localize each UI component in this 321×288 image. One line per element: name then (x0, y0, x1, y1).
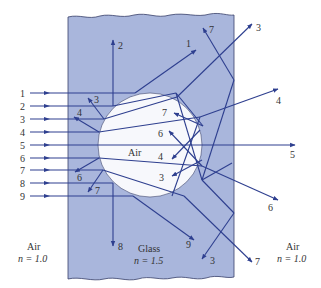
svg-text:3: 3 (210, 255, 215, 266)
svg-text:3: 3 (256, 22, 261, 33)
svg-text:1: 1 (186, 38, 191, 49)
svg-text:n = 1.0: n = 1.0 (277, 253, 306, 264)
svg-text:6: 6 (77, 172, 82, 183)
svg-text:Air: Air (286, 241, 300, 252)
svg-text:n = 1.0: n = 1.0 (18, 253, 47, 264)
svg-text:6: 6 (158, 128, 163, 139)
svg-text:4: 4 (158, 151, 163, 162)
svg-text:Glass: Glass (138, 243, 160, 254)
diagram: 1 2 3 4 5 6 7 8 9 2 1 7 3 4 5 6 7 3 9 8 … (0, 0, 321, 288)
svg-text:2: 2 (118, 40, 123, 51)
svg-text:n = 1.5: n = 1.5 (134, 255, 163, 266)
svg-text:3: 3 (20, 114, 25, 125)
svg-text:4: 4 (276, 95, 281, 106)
svg-text:2: 2 (20, 101, 25, 112)
svg-text:3: 3 (94, 94, 99, 105)
svg-text:4: 4 (77, 107, 82, 118)
incident-labels: 1 2 3 4 5 6 7 8 9 (20, 88, 25, 202)
svg-text:Air: Air (27, 241, 41, 252)
svg-text:7: 7 (95, 185, 100, 196)
svg-text:5: 5 (20, 140, 25, 151)
svg-text:5: 5 (290, 149, 295, 160)
svg-text:4: 4 (20, 127, 25, 138)
svg-text:Air: Air (128, 147, 142, 158)
svg-text:7: 7 (255, 256, 260, 267)
svg-text:7: 7 (20, 165, 25, 176)
svg-text:7: 7 (209, 24, 214, 35)
svg-text:9: 9 (186, 239, 191, 250)
svg-text:1: 1 (20, 88, 25, 99)
ray-diagram: 1 2 3 4 5 6 7 8 9 2 1 7 3 4 5 6 7 3 9 8 … (0, 0, 321, 288)
svg-text:6: 6 (20, 153, 25, 164)
svg-text:9: 9 (20, 191, 25, 202)
svg-text:6: 6 (268, 202, 273, 213)
svg-text:8: 8 (20, 178, 25, 189)
svg-text:8: 8 (118, 241, 123, 252)
svg-text:3: 3 (159, 172, 164, 183)
svg-text:7: 7 (162, 107, 167, 118)
